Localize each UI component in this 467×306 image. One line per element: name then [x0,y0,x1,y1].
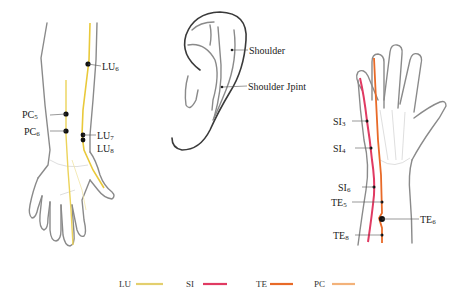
legend-item-pc: PC [314,279,355,289]
point-shoulder [231,49,234,52]
legend-item-lu: LU [119,279,163,289]
left-forearm-figure: LU6 PC5 PC6 LU7 LU8 [22,23,119,246]
label-si6: SI6 [338,182,351,194]
point-shoulder-joint [221,86,224,89]
label-shoulder-joint: Shoulder Jpint [248,81,306,92]
point-lu8 [81,138,86,143]
label-te5: TE5 [331,197,347,209]
label-lu6: LU6 [102,61,119,73]
acupoint-diagram: LU6 PC5 PC6 LU7 LU8 Shoulder Shoulder Jp… [0,0,467,306]
legend-item-si: SI [186,279,227,289]
label-te6: TE6 [420,214,436,226]
label-pc6: PC6 [24,126,40,138]
legend: LU SI TE PC [119,279,355,289]
svg-text:PC: PC [314,279,325,289]
svg-text:SI: SI [186,279,194,289]
svg-text:LU: LU [119,279,131,289]
label-te8: TE8 [333,230,349,242]
label-pc5: PC5 [22,109,38,121]
legend-item-te: TE [256,279,293,289]
svg-text:TE: TE [256,279,267,289]
label-lu7: LU7 [97,130,114,142]
label-lu8: LU8 [97,143,114,155]
right-hand-figure: SI3 SI4 SI6 TE5 TE6 TE8 [331,45,446,245]
label-shoulder: Shoulder [249,45,286,56]
label-si3: SI3 [333,116,346,128]
ear-figure: Shoulder Shoulder Jpint [172,12,306,150]
label-si4: SI4 [333,143,346,155]
